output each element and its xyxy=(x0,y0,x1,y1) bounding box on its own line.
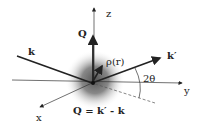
k-prime-label: k′ xyxy=(167,51,177,61)
z-axis-label: z xyxy=(106,9,111,19)
q-label: Q xyxy=(78,29,87,39)
x-axis-label: x xyxy=(36,113,42,123)
density-label: ρ(r) xyxy=(106,57,124,67)
angle-label: 2θ xyxy=(143,74,155,84)
equation-label: Q = k′ - k xyxy=(73,106,125,116)
angle-arc xyxy=(135,68,140,98)
k-label: k xyxy=(28,47,35,57)
y-axis-label: y xyxy=(184,86,190,96)
origin-point xyxy=(91,81,95,85)
